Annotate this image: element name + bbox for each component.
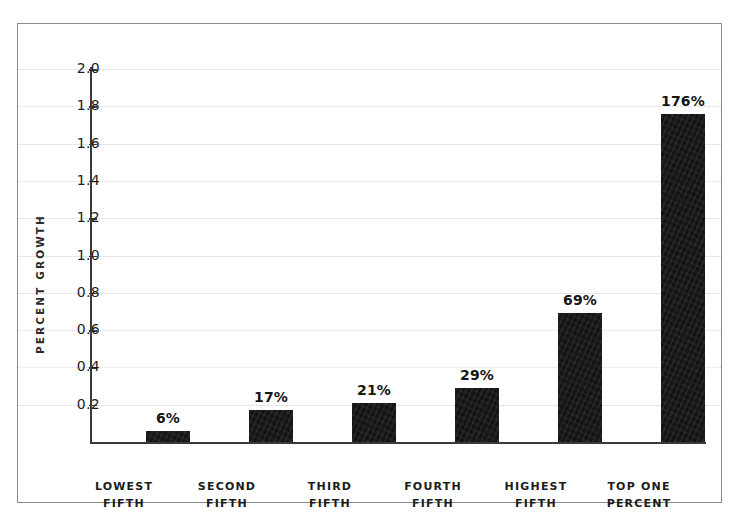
category-label-lowest-fifth: LOWEST FIFTH <box>66 478 182 512</box>
ytick-label-1-2: 1.2 <box>56 209 100 225</box>
category-label-line1: TOP ONE <box>607 480 670 493</box>
ytick-label-1-6-wrap: 1.6 <box>48 135 100 151</box>
bar-texture <box>146 431 190 442</box>
bar-texture <box>455 388 499 442</box>
bar-lowest-fifth[interactable]: 6% <box>146 431 190 442</box>
ytick-label-0-4-wrap: 0.4 <box>48 358 100 374</box>
category-label-line1: HIGHEST <box>505 480 568 493</box>
bar-texture <box>352 403 396 442</box>
category-label-highest-fifth: HIGHEST FIFTH <box>478 478 594 512</box>
ytick-label-0-8-wrap: 0.8 <box>48 284 100 300</box>
x-axis-line <box>90 442 706 444</box>
ytick-label-1-0: 1.0 <box>56 247 100 263</box>
chart-frame: 2.0 1.8 1.6 1.4 1.2 1.0 0.8 0.6 0.4 0.2 … <box>17 23 722 503</box>
category-label-fourth-fifth: FOURTH FIFTH <box>375 478 491 512</box>
ytick-label-2-0: 2.0 <box>56 60 100 76</box>
ytick-label-0-6: 0.6 <box>56 321 100 337</box>
category-label-line1: FOURTH <box>404 480 462 493</box>
category-label-line1: THIRD <box>308 480 352 493</box>
category-label-line2: FIFTH <box>478 495 594 512</box>
bar-value-label-4: 29% <box>460 367 494 383</box>
ytick-label-2-0-wrap: 2.0 <box>48 60 100 76</box>
bar-second-fifth[interactable]: 17% <box>249 410 293 442</box>
plot-area: 6% 17% 21% 29% 69% 176% <box>97 69 711 442</box>
ytick-label-1-4: 1.4 <box>56 172 100 188</box>
bar-top-one-percent[interactable]: 176% <box>661 114 705 442</box>
category-label-line2: FIFTH <box>66 495 182 512</box>
bar-texture <box>558 313 602 442</box>
category-label-line2: PERCENT <box>581 495 697 512</box>
bar-value-label-5: 69% <box>563 292 597 308</box>
ytick-label-0-2-wrap: 0.2 <box>48 396 100 412</box>
ytick-label-1-8: 1.8 <box>56 97 100 113</box>
category-label-third-fifth: THIRD FIFTH <box>272 478 388 512</box>
bar-texture <box>249 410 293 442</box>
category-label-line2: FIFTH <box>169 495 285 512</box>
bar-third-fifth[interactable]: 21% <box>352 403 396 442</box>
y-axis-title: PERCENT GROWTH <box>34 174 54 394</box>
ytick-label-1-6: 1.6 <box>56 135 100 151</box>
y-axis-line <box>90 67 92 444</box>
chart-screenshot: 2.0 1.8 1.6 1.4 1.2 1.0 0.8 0.6 0.4 0.2 … <box>0 0 737 525</box>
category-label-line2: FIFTH <box>375 495 491 512</box>
ytick-label-1-8-wrap: 1.8 <box>48 97 100 113</box>
bar-highest-fifth[interactable]: 69% <box>558 313 602 442</box>
category-label-top-one-percent: TOP ONE PERCENT <box>581 478 697 512</box>
category-label-second-fifth: SECOND FIFTH <box>169 478 285 512</box>
bar-texture <box>661 114 705 442</box>
ytick-label-1-4-wrap: 1.4 <box>48 172 100 188</box>
ytick-label-0-6-wrap: 0.6 <box>48 321 100 337</box>
ytick-label-0-4: 0.4 <box>56 358 100 374</box>
ytick-label-0-2: 0.2 <box>56 396 100 412</box>
bar-value-label-1: 6% <box>156 410 180 426</box>
bar-value-label-6: 176% <box>661 93 705 109</box>
category-label-line1: LOWEST <box>95 480 153 493</box>
category-label-line2: FIFTH <box>272 495 388 512</box>
ytick-label-1-0-wrap: 1.0 <box>48 247 100 263</box>
ytick-label-0-8: 0.8 <box>56 284 100 300</box>
bar-fourth-fifth[interactable]: 29% <box>455 388 499 442</box>
bar-value-label-2: 17% <box>254 389 288 405</box>
bar-value-label-3: 21% <box>357 382 391 398</box>
category-label-line1: SECOND <box>198 480 256 493</box>
ytick-label-1-2-wrap: 1.2 <box>48 209 100 225</box>
